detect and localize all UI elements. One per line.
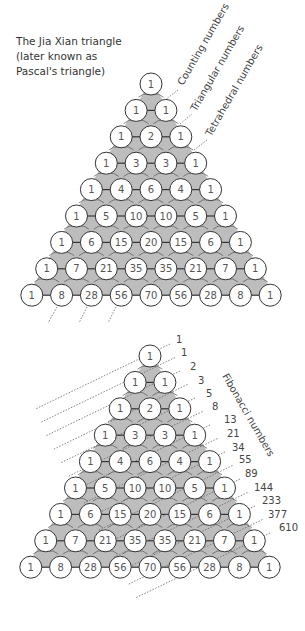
pascal-cell-value: 8	[237, 290, 243, 301]
pascal-cell: 6	[79, 503, 101, 525]
pascal-cell: 3	[155, 152, 177, 174]
pascal-cell-value: 3	[162, 430, 168, 441]
pascal-cell: 8	[50, 556, 72, 578]
pascal-cell-value: 21	[188, 535, 201, 546]
pascal-cell-value: 1	[148, 79, 154, 90]
pascal-cell-value: 7	[73, 263, 79, 274]
fibonacci-value: 377	[268, 509, 287, 520]
pascal-cell: 10	[125, 205, 147, 227]
pascal-cell: 1	[110, 126, 132, 148]
pascal-cell-value: 1	[177, 403, 183, 414]
pascal-cell-value: 20	[144, 509, 157, 520]
pascal-cell-value: 5	[103, 211, 109, 222]
pascal-cell: 1	[35, 530, 57, 552]
pascal-cell-value: 1	[88, 184, 94, 195]
pascal-cell: 35	[155, 258, 177, 280]
pascal-cell: 8	[228, 556, 250, 578]
pascal-cell-value: 56	[114, 562, 127, 573]
pascal-cell-value: 1	[251, 535, 257, 546]
pascal-cell: 1	[94, 424, 116, 446]
fibonacci-value: 21	[227, 428, 240, 439]
pascal-cell-value: 1	[237, 237, 243, 248]
pascal-cell: 28	[80, 284, 102, 306]
pascal-cell-value: 3	[163, 158, 169, 169]
pascal-cell-value: 1	[132, 377, 138, 388]
pascal-cell: 1	[259, 284, 281, 306]
pascal-cell-value: 1	[28, 562, 34, 573]
pascal-cell: 5	[94, 477, 116, 499]
fibonacci-value: 13	[224, 414, 237, 425]
pascal-cell-value: 1	[44, 263, 50, 274]
pascal-cell-value: 1	[29, 290, 35, 301]
pascal-cell-value: 4	[178, 184, 184, 195]
pascal-cell: 4	[169, 451, 191, 473]
pascal-cell-value: 21	[100, 263, 113, 274]
pascal-cell-value: 8	[236, 562, 242, 573]
pascal-cell: 6	[139, 451, 161, 473]
pascal-cell: 15	[170, 231, 192, 253]
pascal-cell: 56	[109, 556, 131, 578]
pascal-cell: 35	[125, 258, 147, 280]
pascal-cell: 3	[125, 152, 147, 174]
pascal-cell-value: 56	[174, 290, 187, 301]
pascal-cell: 1	[36, 258, 58, 280]
pascal-cell: 7	[215, 258, 237, 280]
pascal-cell-value: 1	[178, 131, 184, 142]
pascal-cell-value: 1	[87, 456, 93, 467]
pascal-cell-value: 1	[73, 211, 79, 222]
pascal-cell-value: 1	[102, 430, 108, 441]
pascal-cell-value: 1	[207, 184, 213, 195]
pascal-cell: 1	[229, 231, 251, 253]
fibonacci-value: 610	[279, 522, 298, 533]
pascal-cell-value: 70	[145, 290, 158, 301]
pascal-cell: 21	[184, 530, 206, 552]
pascal-cell: 35	[154, 530, 176, 552]
pascal-cell: 1	[244, 258, 266, 280]
pascal-cell: 5	[95, 205, 117, 227]
pascal-cell-value: 15	[173, 509, 186, 520]
pascal-cell: 28	[200, 284, 222, 306]
pascal-cell-value: 15	[114, 509, 127, 520]
pascal-cell: 1	[79, 451, 101, 473]
pascal-cell: 4	[170, 179, 192, 201]
pascal-cell-value: 4	[118, 184, 124, 195]
pascal-cell-value: 15	[115, 237, 128, 248]
pascal-cell: 6	[199, 503, 221, 525]
pascal-cell-value: 35	[129, 535, 142, 546]
pascal-cell-value: 1	[147, 351, 153, 362]
pascal-cell-value: 3	[132, 430, 138, 441]
pascal-cell: 8	[229, 284, 251, 306]
triangular-numbers-label: Triangular numbers	[188, 23, 247, 113]
pascal-cell: 20	[139, 503, 161, 525]
pascal-cell: 1	[80, 179, 102, 201]
pascal-cell: 56	[110, 284, 132, 306]
pascal-cell: 1	[66, 205, 88, 227]
pascal-cell: 70	[139, 556, 161, 578]
pascal-cell-value: 1	[266, 562, 272, 573]
pascal-cell: 6	[80, 231, 102, 253]
pascal-cell-value: 10	[160, 211, 173, 222]
pascal-cell: 1	[169, 398, 191, 420]
pascal-cell-value: 10	[129, 483, 142, 494]
pascal-cell: 15	[109, 503, 131, 525]
pascal-cell-value: 70	[144, 562, 157, 573]
pascal-cell-value: 1	[206, 456, 212, 467]
pascal-cell: 1	[21, 284, 43, 306]
pascal-cell-value: 2	[147, 403, 153, 414]
pascal-cell-value: 1	[222, 211, 228, 222]
pascal-cell-value: 2	[148, 131, 154, 142]
pascal-cell: 10	[154, 477, 176, 499]
pascal-cell: 1	[185, 152, 207, 174]
pascal-cell-value: 35	[159, 535, 172, 546]
pascal-cell-value: 7	[221, 535, 227, 546]
pascal-cell: 2	[139, 398, 161, 420]
pascal-cell: 4	[110, 179, 132, 201]
pascal-diagram: 1111211331146411510105116152015611721353…	[0, 0, 305, 631]
pascal-cell-value: 28	[203, 562, 216, 573]
pascal-cell-value: 56	[115, 290, 128, 301]
pascal-cell-value: 1	[236, 509, 242, 520]
pascal-cell: 35	[124, 530, 146, 552]
pascal-cell: 7	[66, 258, 88, 280]
pascal-cell: 1	[65, 477, 87, 499]
fibonacci-value: 2	[190, 361, 196, 372]
